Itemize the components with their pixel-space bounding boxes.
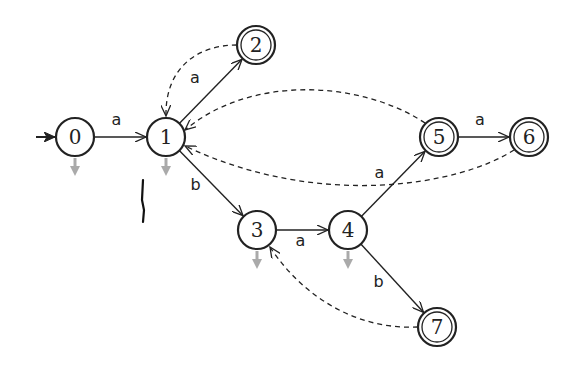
state-5: 5: [420, 118, 458, 156]
state-label: 4: [342, 218, 355, 242]
state-label: 3: [251, 218, 264, 242]
state-label: 5: [433, 125, 446, 149]
failure-links-layer: [166, 45, 514, 327]
state-label: 6: [523, 125, 536, 149]
state-6: 6: [510, 118, 548, 156]
transition-label: b: [190, 175, 200, 194]
transition-label: b: [373, 272, 383, 291]
pen-mark: [142, 180, 144, 222]
state-label: 2: [250, 33, 263, 57]
transition-4-7: [361, 244, 424, 312]
state-3: 3: [238, 211, 276, 249]
failure-link-2-1: [166, 45, 237, 116]
transition-1-2: [179, 59, 242, 123]
state-1: 1: [147, 118, 185, 156]
state-0: 0: [56, 118, 94, 156]
transition-label: a: [296, 231, 306, 250]
state-label: 0: [69, 125, 82, 149]
failure-link-6-1: [185, 146, 514, 186]
transition-label: a: [475, 110, 485, 129]
state-label: 1: [160, 125, 173, 149]
transition-1-3: [179, 151, 243, 216]
failure-down-arrows-layer: [70, 158, 353, 269]
transition-label: a: [375, 163, 385, 182]
transition-label: a: [112, 110, 122, 129]
state-2: 2: [237, 26, 275, 64]
failure-down-arrow-icon: [70, 158, 80, 176]
state-7: 7: [418, 308, 456, 346]
state-label: 7: [431, 315, 444, 339]
state-4: 4: [329, 211, 367, 249]
transition-label: a: [190, 68, 200, 87]
failure-down-arrow-icon: [343, 251, 353, 269]
transitions-layer: aabaaab: [94, 59, 509, 312]
automaton-diagram: aabaaab 01234567: [0, 0, 575, 365]
failure-down-arrow-icon: [252, 251, 262, 269]
failure-down-arrow-icon: [161, 158, 171, 176]
states-layer: 01234567: [56, 26, 548, 346]
failure-link-5-1: [185, 90, 425, 130]
